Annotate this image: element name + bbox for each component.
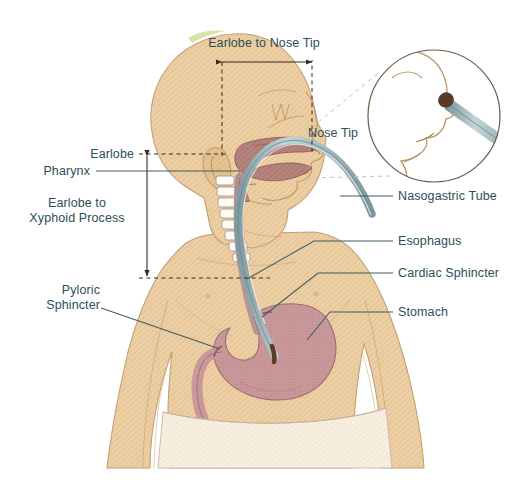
diagram-illustration	[0, 0, 528, 503]
nasogastric-tube-diagram: Earlobe to Nose Tip Nose Tip Earlobe Pha…	[0, 0, 528, 503]
nasogastric-tube-tip	[272, 346, 274, 362]
nipple-right	[313, 292, 318, 296]
nose-tip-inset	[306, 48, 524, 201]
infant-body-illustration	[96, 30, 524, 468]
nipple-left	[205, 294, 210, 298]
inset-circle-fill	[368, 50, 500, 182]
